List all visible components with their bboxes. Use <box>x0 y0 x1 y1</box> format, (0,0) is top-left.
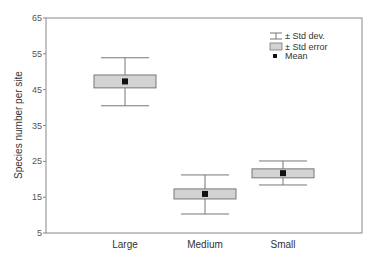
legend-box-swatch <box>270 43 282 50</box>
x-category-label: Large <box>112 239 138 250</box>
x-category-label: Small <box>270 239 295 250</box>
x-axis: LargeMediumSmall <box>112 239 295 250</box>
y-tick-label: 45 <box>32 85 42 95</box>
y-axis-title: Species number per site <box>13 71 24 179</box>
chart: 5152535455565 Species number per site La… <box>0 0 376 260</box>
mean-marker <box>122 78 128 84</box>
y-tick-label: 65 <box>32 13 42 23</box>
x-category-label: Medium <box>187 239 223 250</box>
y-tick-label: 25 <box>32 156 42 166</box>
legend-mean-marker <box>273 54 277 58</box>
legend-label: ± Std dev. <box>285 31 325 41</box>
legend-label: Mean <box>285 51 308 61</box>
mean-marker <box>202 191 208 197</box>
y-tick-label: 5 <box>37 228 42 238</box>
y-axis: 5152535455565 <box>32 13 46 238</box>
y-tick-label: 55 <box>32 49 42 59</box>
mean-marker <box>280 170 286 176</box>
y-tick-label: 35 <box>32 121 42 131</box>
y-tick-label: 15 <box>32 192 42 202</box>
